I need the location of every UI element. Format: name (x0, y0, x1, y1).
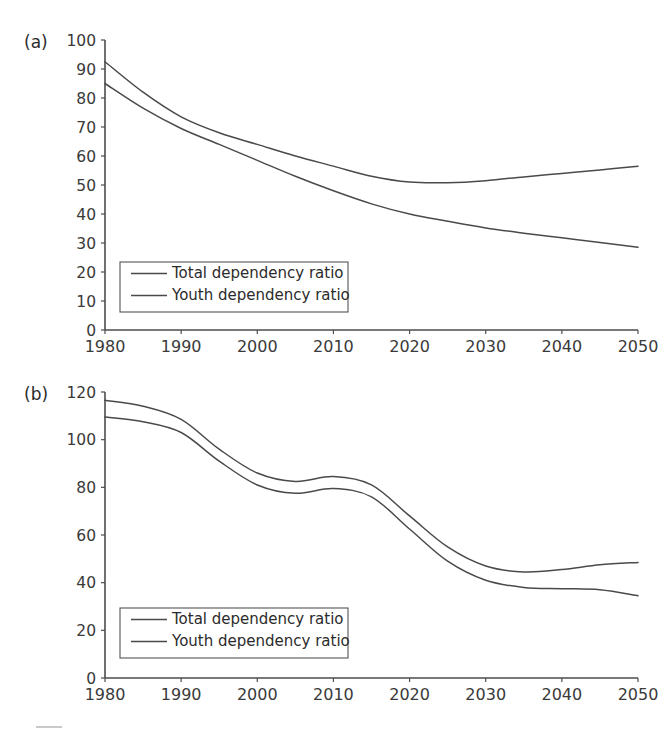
y-tick-label: 120 (66, 384, 96, 402)
x-tick-label: 2050 (618, 337, 659, 356)
y-tick-label: 80 (76, 479, 96, 497)
x-tick-label: 2040 (541, 685, 582, 704)
x-tick-label: 1980 (85, 685, 126, 704)
y-tick-label: 20 (76, 622, 96, 640)
y-tick-label: 50 (76, 177, 96, 195)
y-tick-label: 40 (76, 206, 96, 224)
y-tick-label: 60 (76, 527, 96, 545)
x-tick-label: 1990 (161, 337, 202, 356)
x-tick-label: 2050 (618, 685, 659, 704)
x-tick-label: 2020 (389, 685, 430, 704)
y-tick-label: 20 (76, 264, 96, 282)
y-tick-label: 90 (76, 61, 96, 79)
chart-panel-b: (b)0204060801001201980199020002010202020… (0, 368, 670, 737)
x-tick-label: 2040 (541, 337, 582, 356)
x-tick-label: 2020 (389, 337, 430, 356)
y-tick-label: 40 (76, 574, 96, 592)
legend-label-youth: Youth dependency ratio (171, 286, 350, 304)
x-tick-label: 2000 (237, 685, 278, 704)
y-tick-label: 80 (76, 90, 96, 108)
chart-panel-a: (a)0102030405060708090100198019902000201… (0, 0, 670, 368)
y-tick-label: 70 (76, 119, 96, 137)
legend-label-total: Total dependency ratio (171, 610, 344, 628)
x-tick-label: 2030 (465, 337, 506, 356)
chart-b-canvas: (b)0204060801001201980199020002010202020… (0, 368, 670, 737)
legend-label-total: Total dependency ratio (171, 264, 344, 282)
series-line-youth (105, 417, 638, 596)
y-tick-label: 10 (76, 293, 96, 311)
x-tick-label: 2010 (313, 685, 354, 704)
panel-tag: (b) (24, 384, 48, 404)
dependency-ratio-figure: (a)0102030405060708090100198019902000201… (0, 0, 670, 737)
chart-a-canvas: (a)0102030405060708090100198019902000201… (0, 0, 670, 368)
x-tick-label: 2030 (465, 685, 506, 704)
x-tick-label: 1980 (85, 337, 126, 356)
y-tick-label: 100 (66, 431, 96, 449)
series-line-youth (105, 84, 638, 248)
x-tick-label: 1990 (161, 685, 202, 704)
panel-tag: (a) (24, 32, 48, 52)
x-tick-label: 2000 (237, 337, 278, 356)
x-tick-label: 2010 (313, 337, 354, 356)
series-line-total (105, 62, 638, 183)
y-tick-label: 60 (76, 148, 96, 166)
page-footer-mark (36, 726, 62, 728)
y-tick-label: 100 (66, 32, 96, 50)
legend-label-youth: Youth dependency ratio (171, 632, 350, 650)
series-line-total (105, 400, 638, 572)
y-tick-label: 30 (76, 235, 96, 253)
